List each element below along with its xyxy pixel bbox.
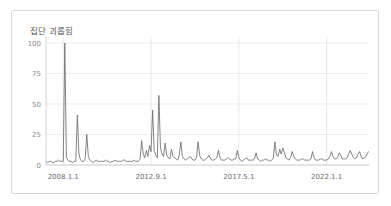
data-series [46,43,369,163]
x-tick-labels: 2008.1.12012.9.12017.5.12022.1.1 [48,173,343,181]
x-tick-label: 2022.1.1 [311,173,342,181]
y-tick-label: 50 [32,101,41,109]
y-tick-label: 75 [32,70,41,78]
plot-area: 0255075100 2008.1.12012.9.12017.5.12022.… [12,11,380,195]
line-chart-svg: 0255075100 2008.1.12012.9.12017.5.12022.… [12,11,380,195]
x-tick-label: 2012.9.1 [135,173,166,181]
y-tick-label: 0 [37,162,41,170]
horizontal-gridlines [46,43,369,165]
x-tick-label: 2008.1.1 [48,173,79,181]
x-tick-label: 2017.5.1 [223,173,254,181]
y-tick-label: 100 [28,40,41,48]
y-tick-label: 25 [32,131,41,139]
series-line [46,43,369,163]
y-tick-labels: 0255075100 [28,40,41,170]
vertical-gridlines [63,37,326,165]
chart-card: 집단 괴롭힘 0255075100 2008.1.12012.9.12017.5… [11,10,379,194]
